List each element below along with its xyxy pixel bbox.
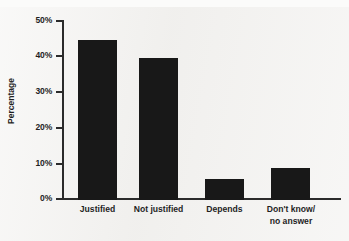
y-tick-mark-40 xyxy=(56,55,62,57)
y-axis-line xyxy=(62,20,64,200)
y-tick-label-40-text: 40% xyxy=(36,50,52,60)
y-tick-label-10: 10% xyxy=(0,158,52,168)
y-tick-mark-30 xyxy=(56,91,62,93)
y-tick-label-50: 50% xyxy=(0,15,52,25)
y-tick-label-0-text: 0% xyxy=(40,193,52,203)
y-tick-label-30-text: 30% xyxy=(36,86,52,96)
y-tick-mark-20 xyxy=(56,127,62,129)
y-tick-label-20: 20% xyxy=(0,122,52,132)
x-category-label-not-justified: Not justified xyxy=(121,204,196,216)
plot-area: Percentage 50% 40% 30% 20% 10% 0% Justif… xyxy=(0,0,349,241)
y-tick-label-0: 0% xyxy=(0,193,52,203)
y-tick-label-20-text: 20% xyxy=(36,122,52,132)
bar-justified xyxy=(78,40,117,200)
bar-chart: Percentage 50% 40% 30% 20% 10% 0% Justif… xyxy=(0,0,349,241)
y-tick-mark-0 xyxy=(56,198,62,200)
x-category-label-dont-know: Don't know/ no answer xyxy=(251,204,331,227)
x-category-label-depends: Depends xyxy=(192,204,257,216)
y-tick-mark-50 xyxy=(56,20,62,22)
bar-not-justified xyxy=(139,58,178,200)
y-tick-label-40: 40% xyxy=(0,50,52,60)
y-tick-mark-10 xyxy=(56,163,62,165)
bar-depends xyxy=(205,179,244,200)
y-tick-label-30: 30% xyxy=(0,86,52,96)
y-tick-label-50-text: 50% xyxy=(36,15,52,25)
y-tick-label-10-text: 10% xyxy=(36,158,52,168)
bar-dont-know xyxy=(271,168,310,200)
